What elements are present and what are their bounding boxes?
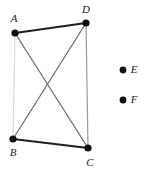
vertex-c-dot (84, 144, 91, 151)
vertex-label-c: C (86, 156, 94, 168)
vertex-label-a: A (10, 12, 18, 24)
vertex-label-d: D (81, 3, 90, 15)
point-label-f: F (130, 93, 138, 105)
vertex-label-b: B (10, 146, 17, 158)
point-e-dot (120, 67, 127, 74)
geometry-figure: A D B C E F (0, 0, 145, 175)
vertex-d-dot (82, 19, 89, 26)
vertex-a-dot (11, 29, 18, 36)
vertex-b-dot (9, 135, 16, 142)
point-label-e: E (130, 63, 138, 75)
figure-background (0, 0, 145, 175)
point-f-dot (120, 97, 127, 104)
figure-canvas: A D B C E F (0, 0, 145, 175)
